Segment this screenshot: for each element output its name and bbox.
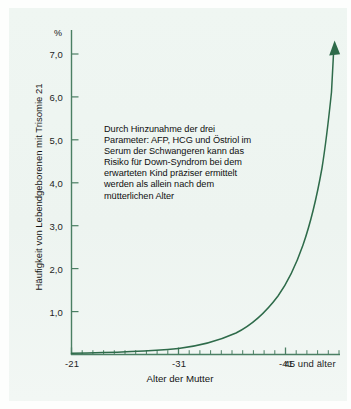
- annotation-line-3: Serum der Schwangeren kann das: [104, 146, 274, 157]
- x-axis-title: Alter der Mutter: [95, 373, 265, 384]
- annotation-line-5: erwarteten Kind präziser ermittelt: [104, 168, 274, 179]
- x-tick-label-21: -21: [57, 358, 87, 369]
- annotation-line-4: Risiko für Down-Syndrom bei dem: [104, 157, 274, 168]
- chart-canvas: [0, 0, 351, 409]
- annotation-line-7: mütterlichen Alter: [104, 191, 274, 202]
- y-tick-label-1: 1,0: [37, 307, 63, 318]
- y-axis-unit-label: %: [54, 28, 62, 38]
- x-tick-label-45-plus: 45 und älter: [272, 358, 348, 369]
- y-axis-title: Häufigkeit von Lebendgeborenen mit Triso…: [33, 91, 44, 291]
- trisomy-frequency-curve: [72, 52, 334, 353]
- annotation-line-2: Parameter: AFP, HCG und Östriol im: [104, 135, 274, 146]
- y-axis-ticks: [72, 54, 79, 312]
- curve-arrowhead: [329, 41, 340, 56]
- annotation-text-block: Durch Hinzunahme der drei Parameter: AFP…: [104, 124, 274, 202]
- annotation-line-6: werden als allein nach dem: [104, 179, 274, 190]
- x-tick-label-31: -31: [164, 358, 194, 369]
- chart-figure: % 1,0 2,0 3,0 4,0 5,0 6,0 7,0 -21 -31 -4…: [0, 0, 351, 409]
- annotation-line-1: Durch Hinzunahme der drei: [104, 124, 274, 135]
- y-tick-label-7: 7,0: [37, 49, 63, 60]
